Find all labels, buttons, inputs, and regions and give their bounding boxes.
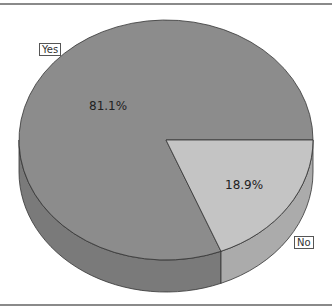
category-label-no: No bbox=[294, 236, 314, 249]
data-label-no: 18.9% bbox=[225, 178, 263, 192]
data-label-yes: 81.1% bbox=[89, 99, 127, 113]
frame-bottom-border bbox=[0, 304, 332, 306]
category-label-yes: Yes bbox=[39, 43, 61, 56]
